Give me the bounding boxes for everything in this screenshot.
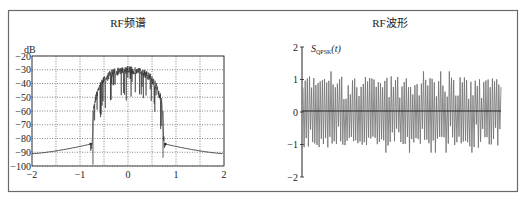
x-tick-label: 2 (222, 169, 227, 180)
y-tick-label: −50 (15, 92, 31, 103)
y-tick-label: −40 (15, 78, 31, 89)
x-tick-label: 1 (174, 169, 179, 180)
spectrum-marker-left (89, 143, 92, 146)
y-tick-label: −80 (15, 133, 31, 144)
spectrum-skirt-right (165, 144, 223, 154)
y-tick-label: −30 (15, 64, 31, 75)
spectrum-chart: RF频谱 dB −20−30−40−50−60−70−80−90−100 −2−… (10, 16, 226, 180)
spectrum-title: RF频谱 (110, 16, 145, 29)
x-tick-label: 0 (126, 169, 131, 180)
y-tick-label: 2 (293, 42, 298, 53)
y-tick-label: 0 (293, 107, 298, 118)
waveform-y-axis: 210−1−2 (287, 42, 304, 183)
x-tick-label: −2 (27, 169, 38, 180)
y-tick-label: −90 (15, 147, 31, 158)
waveform-chart: RF波形 SQPSK(t) 210−1−2 (287, 17, 501, 183)
waveform-line (303, 71, 501, 152)
x-tick-label: −1 (75, 169, 86, 180)
spectrum-skirt-left (32, 144, 90, 153)
spectrum-trace (32, 66, 223, 165)
y-tick-label: −1 (287, 139, 298, 150)
y-tick-label: −2 (287, 172, 298, 183)
figure-panel: RF频谱 dB −20−30−40−50−60−70−80−90−100 −2−… (0, 0, 526, 200)
spectrum-marker-right (164, 143, 167, 146)
y-tick-label: −70 (15, 119, 31, 130)
waveform-ylabel-tail: (t) (331, 43, 341, 55)
spectrum-y-tick-labels: −20−30−40−50−60−70−80−90−100 (10, 51, 31, 172)
y-tick-label: −20 (15, 51, 31, 62)
waveform-title: RF波形 (372, 17, 407, 29)
waveform-ylabel-sub: QPSK (316, 49, 332, 55)
waveform-trace (303, 71, 501, 152)
y-tick-label: 1 (293, 74, 298, 85)
waveform-ylabel: SQPSK(t) (311, 43, 341, 55)
y-tick-label: −60 (15, 106, 31, 117)
spectrum-x-tick-labels: −2−1012 (27, 169, 227, 180)
